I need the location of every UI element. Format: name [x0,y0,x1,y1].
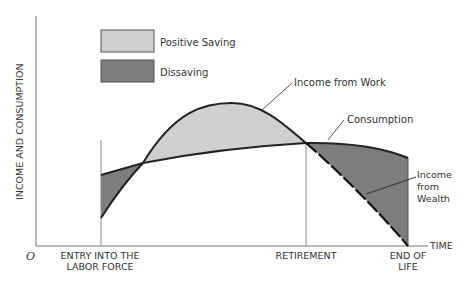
income-work-label: Income from Work [294,77,386,88]
entry-label-2: LABOR FORCE [66,261,133,272]
consumption-label: Consumption [347,114,413,125]
legend-dissaving-swatch [101,60,154,82]
time-axis-label: TIME [429,240,453,251]
retirement-dissaving-area [306,143,408,246]
y-axis-label: INCOME AND CONSUMPTION [14,64,25,201]
legend-positive-label: Positive Saving [160,37,236,48]
wealth-label-3: Wealth [417,193,450,204]
entry-label-1: ENTRY INTO THE [61,250,140,261]
positive-saving-area [143,103,306,163]
retirement-label: RETIREMENT [276,250,337,261]
legend-positive-swatch [101,30,154,52]
end-of-life-label-2: LIFE [398,261,418,272]
legend-dissaving-label: Dissaving [160,67,208,78]
life-cycle-diagram: Positive Saving Dissaving Income from Wo… [0,0,467,286]
income-work-leader [262,83,292,110]
wealth-label-1: Income [417,169,452,180]
wealth-label-2: from [417,181,439,192]
consumption-leader [328,120,344,140]
end-of-life-label-1: END OF [390,250,426,261]
origin-label: O [26,250,35,263]
